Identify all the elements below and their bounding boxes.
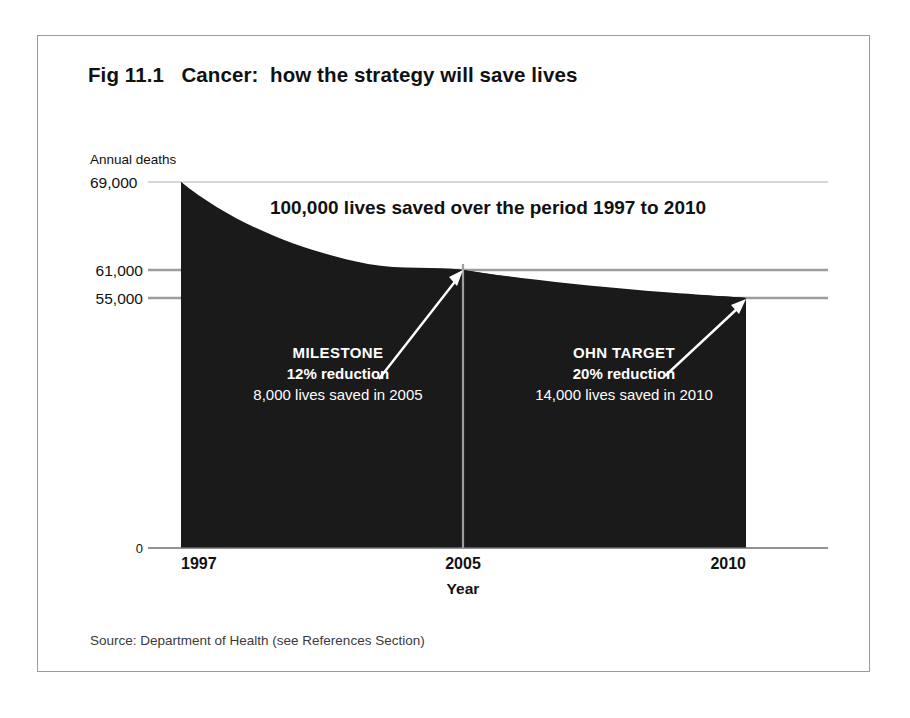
chart-canvas: Annual deaths 69,000 61,000 55,000 0 <box>38 36 871 673</box>
ohn-target-subheading: 20% reduction <box>573 365 676 382</box>
y-tick-label-61000: 61,000 <box>96 262 144 279</box>
y-axis-header: Annual deaths <box>90 152 177 167</box>
x-tick-label-2005: 2005 <box>445 555 481 572</box>
y-tick-label-69000: 69,000 <box>90 174 138 191</box>
x-axis-title: Year <box>447 580 480 597</box>
milestone-detail: 8,000 lives saved in 2005 <box>253 386 422 403</box>
y-tick-label-0: 0 <box>136 541 143 556</box>
milestone-heading: MILESTONE <box>293 344 384 361</box>
source-note: Source: Department of Health (see Refere… <box>90 633 425 648</box>
ohn-target-detail: 14,000 lives saved in 2010 <box>535 386 713 403</box>
ohn-target-heading: OHN TARGET <box>573 344 675 361</box>
y-tick-label-55000: 55,000 <box>96 290 144 307</box>
x-tick-label-2010: 2010 <box>710 555 746 572</box>
figure-frame: Fig 11.1 Cancer: how the strategy will s… <box>37 35 870 672</box>
x-tick-label-1997: 1997 <box>181 555 217 572</box>
lives-saved-banner: 100,000 lives saved over the period 1997… <box>270 197 706 218</box>
milestone-subheading: 12% reduction <box>287 365 390 382</box>
